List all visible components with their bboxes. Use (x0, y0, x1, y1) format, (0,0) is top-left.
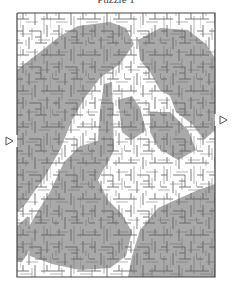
entrance-arrow-icon (6, 137, 13, 145)
exit-arrow-icon (220, 116, 227, 124)
maze-walls (17, 13, 215, 277)
maze-board[interactable] (0, 0, 232, 296)
